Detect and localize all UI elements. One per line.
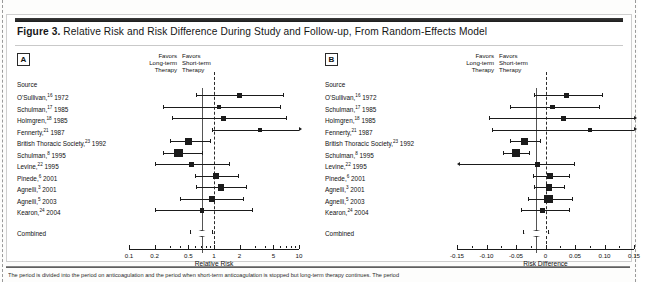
combined-diamond <box>523 230 550 237</box>
study-marker <box>550 105 554 109</box>
ci-right-cap <box>283 93 284 97</box>
figure-label: Figure 3. <box>17 26 60 37</box>
axis-minor-tick <box>280 246 281 248</box>
study-marker <box>189 162 194 167</box>
axis-minor-tick <box>531 246 532 248</box>
study-marker <box>185 138 192 145</box>
study-row <box>11 113 331 125</box>
axis-minor-tick <box>501 246 502 248</box>
axis-tick-label: 0.05 <box>564 252 586 259</box>
ci-left-arrow <box>457 162 460 166</box>
ci-left-cap <box>533 174 534 178</box>
confidence-interval-line <box>212 130 299 131</box>
study-marker <box>221 116 226 121</box>
ci-right-arrow <box>299 127 302 131</box>
ci-left-cap <box>528 197 529 201</box>
axis-tick <box>487 245 488 249</box>
study-marker <box>213 173 219 179</box>
study-row <box>319 136 639 148</box>
ci-left-cap <box>534 185 535 189</box>
axis-tick <box>155 245 156 249</box>
ci-right-cap <box>564 185 565 189</box>
study-row <box>319 102 639 114</box>
axis-minor-tick <box>295 246 296 248</box>
study-marker <box>564 93 569 98</box>
axis-tick <box>240 245 241 249</box>
study-row <box>319 159 639 171</box>
study-marker <box>588 128 592 132</box>
ci-left-cap <box>503 151 504 155</box>
confidence-interval-line <box>163 107 280 108</box>
axis-minor-tick <box>170 246 171 248</box>
ci-right-cap <box>202 151 203 155</box>
study-marker <box>546 184 552 190</box>
panel-b: B Favors Long-term Therapy Favors Short-… <box>319 49 627 257</box>
study-row <box>11 194 331 206</box>
axis-tick <box>546 245 547 249</box>
axis-minor-tick <box>265 246 266 248</box>
axis-minor-tick <box>180 246 181 248</box>
axis-minor-tick <box>210 246 211 248</box>
axis-tick-label: 0.1 <box>118 252 140 259</box>
ci-right-arrow <box>634 127 637 131</box>
axis-minor-tick <box>619 246 620 248</box>
panel-a: A Favors Long-term Therapy Favors Short-… <box>11 49 317 257</box>
study-row <box>11 182 331 194</box>
figure-container: Figure 3. Relative Risk and Risk Differe… <box>6 14 632 262</box>
ci-left-cap <box>212 128 213 132</box>
study-marker <box>535 162 540 167</box>
ci-left-cap <box>180 197 181 201</box>
axis-tick-label: 10 <box>288 252 310 259</box>
axis-tick <box>273 245 274 249</box>
study-marker <box>174 149 183 158</box>
axis-minor-tick <box>472 246 473 248</box>
confidence-interval-line <box>172 118 286 119</box>
ci-left-cap <box>155 208 156 212</box>
axis-tick-label: 0 <box>535 252 557 259</box>
combined-right-cap <box>212 230 213 234</box>
axis-tick <box>129 245 130 249</box>
figure-title-text: Relative Risk and Risk Difference During… <box>63 26 487 37</box>
ci-right-cap <box>529 151 530 155</box>
ci-left-cap <box>510 105 511 109</box>
ci-right-cap <box>243 197 244 201</box>
ci-right-cap <box>569 208 570 212</box>
study-row <box>319 182 639 194</box>
axis-tick <box>605 245 606 249</box>
ci-right-cap <box>599 105 600 109</box>
ci-left-cap <box>521 208 522 212</box>
combined-left-cap <box>190 230 191 234</box>
axis-line <box>129 249 299 250</box>
confidence-interval-line <box>492 130 634 131</box>
ci-left-cap <box>172 116 173 120</box>
study-marker <box>540 208 546 214</box>
axis-minor-tick <box>560 246 561 248</box>
ci-left-cap <box>155 162 156 166</box>
study-marker <box>217 105 221 109</box>
ci-right-cap <box>574 162 575 166</box>
axis-line <box>457 249 634 250</box>
study-marker <box>547 173 553 179</box>
axis-tick <box>516 245 517 249</box>
axis-minor-tick <box>195 246 196 248</box>
combined-diamond <box>190 230 214 237</box>
study-row <box>319 125 639 137</box>
study-marker <box>561 116 566 121</box>
ci-right-cap <box>569 174 570 178</box>
ci-right-cap <box>540 139 541 143</box>
study-row <box>319 171 639 183</box>
axis-minor-tick <box>201 246 202 248</box>
ci-left-cap <box>492 128 493 132</box>
study-row <box>319 113 639 125</box>
study-row <box>319 90 639 102</box>
axis-tick-label: 2 <box>229 252 251 259</box>
study-row <box>11 102 331 114</box>
axis-tick <box>575 245 576 249</box>
study-row <box>11 90 331 102</box>
study-row <box>319 194 639 206</box>
study-marker <box>200 208 204 212</box>
figure-top-rule <box>15 18 623 22</box>
combined-left-cap <box>523 230 524 234</box>
study-row <box>11 136 331 148</box>
